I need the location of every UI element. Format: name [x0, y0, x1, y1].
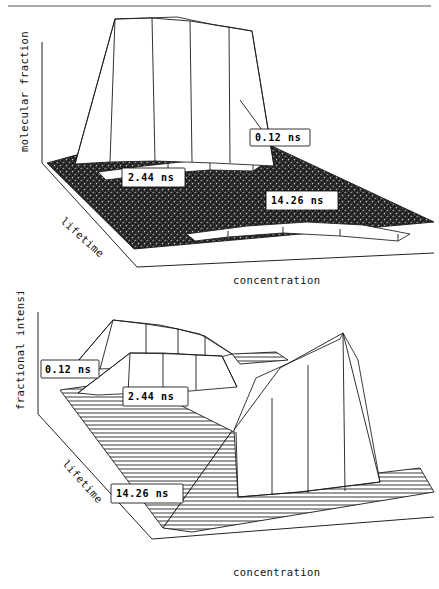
chart-fractional-intensity: fractional intensity — [0, 292, 439, 589]
callout-0-12ns: 0.12 ns — [250, 129, 310, 146]
callout-14-26ns-text: 14.26 ns — [116, 488, 169, 499]
figure-root: molecular fraction — [0, 0, 439, 589]
callout-0-12ns: 0.12 ns — [41, 360, 99, 378]
callout-2-44ns: 2.44 ns — [122, 168, 185, 187]
surface-plane-back-strip — [232, 352, 288, 364]
callout-0-12ns-text: 0.12 ns — [45, 364, 91, 375]
top-chart-svg: molecular fraction — [0, 0, 439, 292]
callout-2-44ns-text: 2.44 ns — [128, 391, 174, 402]
bottom-chart-svg: fractional intensity — [0, 292, 439, 589]
z-axis-label: molecular fraction — [18, 31, 30, 152]
callout-14-26ns-text: 14.26 ns — [271, 195, 324, 206]
x-axis-label: concentration — [233, 566, 320, 578]
callout-14-26ns: 14.26 ns — [111, 484, 183, 503]
z-axis-label: fractional intensity — [14, 292, 26, 410]
callout-0-12ns-text: 0.12 ns — [255, 132, 301, 143]
callout-2-44ns-text: 2.44 ns — [128, 172, 174, 183]
callout-2-44ns: 2.44 ns — [123, 387, 188, 406]
y-axis-label: lifetime — [59, 215, 107, 260]
y-axis-label: lifetime — [61, 457, 106, 505]
chart-molecular-fraction: molecular fraction — [0, 0, 439, 292]
x-axis-label: concentration — [233, 274, 320, 286]
callout-14-26ns: 14.26 ns — [266, 191, 338, 210]
ridge-0-12ns — [75, 17, 274, 166]
